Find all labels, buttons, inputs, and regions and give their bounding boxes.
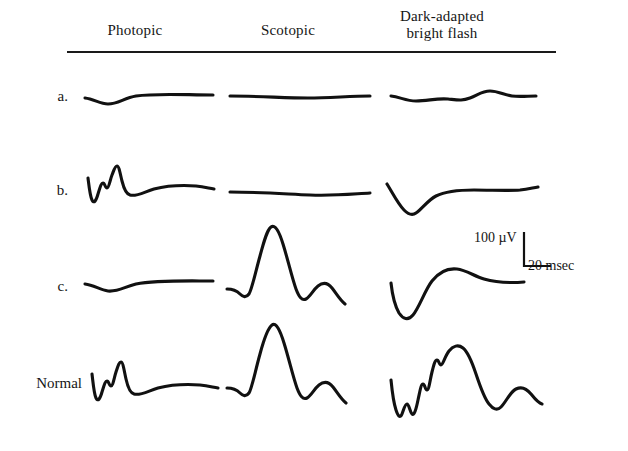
erg-trace (227, 324, 346, 403)
erg-trace (85, 94, 213, 104)
erg-trace (92, 362, 218, 400)
erg-trace (387, 184, 538, 214)
erg-trace (230, 192, 370, 195)
erg-trace (88, 166, 214, 202)
erg-trace (227, 226, 345, 304)
scale-bar-time-label: 20 msec (528, 258, 574, 274)
erg-figure: Photopic Scotopic Dark-adapted bright fl… (0, 0, 628, 451)
erg-trace (85, 281, 213, 291)
scale-bar-amplitude-label: 100 µV (474, 230, 517, 246)
erg-trace (391, 346, 542, 417)
erg-trace (230, 96, 370, 98)
erg-trace (391, 91, 536, 101)
